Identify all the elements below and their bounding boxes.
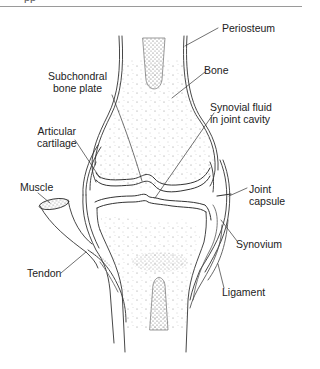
synovium [193, 205, 217, 300]
label-subchondral-bone-plate: Subchondral bone plate [48, 70, 107, 94]
upper-bone [92, 36, 218, 190]
label-tendon: Tendon [27, 267, 61, 279]
label-articular-cartilage: Articular cartilage [37, 125, 77, 149]
lower-bone [95, 194, 211, 352]
label-periosteum: Periosteum [222, 22, 275, 34]
label-ligament: Ligament [222, 286, 265, 298]
label-synovium: Synovium [236, 238, 282, 250]
label-bone: Bone [204, 64, 229, 76]
label-muscle: Muscle [20, 181, 53, 193]
label-joint-capsule: Joint capsule [249, 183, 285, 207]
label-synovial-fluid: Synovial fluid in joint cavity [210, 101, 272, 125]
